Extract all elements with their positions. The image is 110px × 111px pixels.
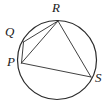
chord-rs: [58, 21, 91, 77]
chord-qp: [22, 42, 24, 63]
vertex-label-s: S: [95, 71, 102, 84]
chord-pr: [22, 21, 59, 63]
vertex-label-p: P: [7, 55, 15, 68]
vertex-label-q: Q: [5, 25, 14, 38]
geometry-figure: P Q R S: [0, 0, 110, 111]
vertex-label-r: R: [52, 1, 60, 14]
chord-ps: [22, 63, 92, 77]
geometry-canvas: [0, 0, 110, 111]
circle-outline: [18, 21, 97, 100]
